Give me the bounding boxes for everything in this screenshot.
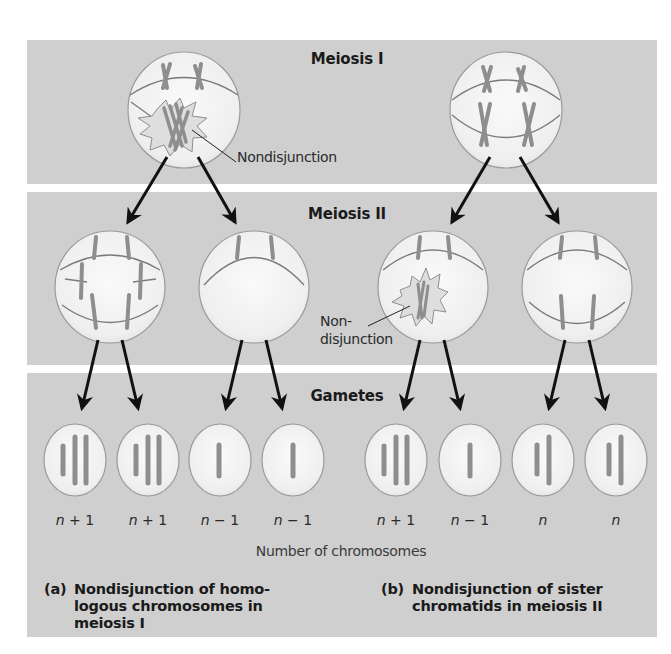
meiosis-1-cell-b <box>450 52 562 168</box>
gamete-count-1: n + 1 <box>56 512 94 528</box>
meiosis-1-cell-a <box>128 52 240 168</box>
nondisjunction-label-meiosis-2-line1: Non- <box>320 313 352 329</box>
caption-b-text: Nondisjunction of sister chromatids in m… <box>412 581 603 615</box>
caption-b: (b) Nondisjunction of sister chromatids … <box>381 581 661 621</box>
gamete-count-6: n − 1 <box>451 512 489 528</box>
meiosis-2-cell-2 <box>199 231 309 343</box>
gamete-1 <box>44 424 106 496</box>
meiosis-2-cell-3 <box>368 231 488 343</box>
gamete-5 <box>365 424 427 496</box>
meiosis-2-cell-1 <box>55 231 165 343</box>
gamete-count-8: n <box>612 512 621 528</box>
number-of-chromosomes-label: Number of chromosomes <box>256 543 427 559</box>
meiosis-1-title: Meiosis I <box>311 50 384 68</box>
meiosis-2-cell-4 <box>522 231 632 343</box>
meiosis-2-title: Meiosis II <box>308 205 386 223</box>
gamete-2 <box>117 424 179 496</box>
caption-b-tag: (b) <box>381 581 404 598</box>
gamete-count-2: n + 1 <box>129 512 167 528</box>
nondisjunction-label-meiosis-1: Nondisjunction <box>237 149 337 165</box>
gamete-3 <box>189 424 251 496</box>
gamete-6 <box>439 424 501 496</box>
caption-a: (a) Nondisjunction of homo- logous chrom… <box>44 581 324 635</box>
gametes-title: Gametes <box>310 387 383 405</box>
gamete-count-5: n + 1 <box>377 512 415 528</box>
caption-a-text: Nondisjunction of homo- logous chromosom… <box>74 581 270 632</box>
gamete-7 <box>512 424 574 496</box>
gamete-8 <box>585 424 647 496</box>
gamete-count-4: n − 1 <box>274 512 312 528</box>
caption-a-tag: (a) <box>44 581 66 598</box>
nondisjunction-label-meiosis-2-line2: disjunction <box>320 331 393 347</box>
gamete-count-3: n − 1 <box>201 512 239 528</box>
gamete-4 <box>262 424 324 496</box>
gamete-count-7: n <box>539 512 548 528</box>
